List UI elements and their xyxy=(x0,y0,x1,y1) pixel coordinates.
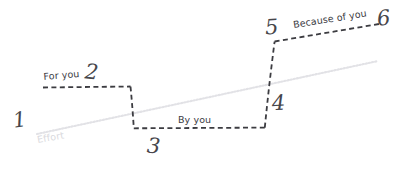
waypoint-number-6: 6 xyxy=(376,7,391,29)
waypoint-number-4: 4 xyxy=(271,93,285,115)
waypoint-number-5: 5 xyxy=(264,17,279,39)
step-segment-because-of-you xyxy=(275,24,379,42)
step-segment-for-you xyxy=(43,87,131,88)
step-diagram-svg xyxy=(0,0,403,169)
step-segment-by-you xyxy=(134,128,265,129)
stage-label-by-you: By you xyxy=(178,114,211,125)
waypoint-number-2: 2 xyxy=(84,61,99,83)
diagram-canvas: For you By you Because of you Effort 1 2… xyxy=(0,0,403,169)
waypoint-number-1: 1 xyxy=(12,109,28,132)
waypoint-number-3: 3 xyxy=(146,136,161,158)
step-riser-down xyxy=(131,87,134,129)
